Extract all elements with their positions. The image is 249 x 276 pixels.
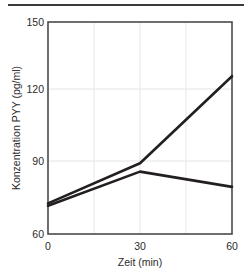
pyy-concentration-line-chart: 150 120 90 60 0 30 60 Zeit (min) Konzent…	[0, 0, 249, 276]
y-tick-label-60: 60	[32, 228, 44, 240]
x-tick-label-30: 30	[134, 240, 146, 252]
x-tick-label-0: 0	[45, 240, 51, 252]
y-tick-label-90: 90	[32, 155, 44, 167]
y-tick-label-120: 120	[26, 83, 44, 95]
y-tick-label-150: 150	[26, 16, 44, 28]
x-axis-title: Zeit (min)	[118, 256, 162, 268]
x-tick-label-60: 60	[226, 240, 238, 252]
chart-figure: 150 120 90 60 0 30 60 Zeit (min) Konzent…	[0, 0, 249, 276]
y-axis-title: Konzentration PYY (pg/ml)	[10, 66, 22, 190]
